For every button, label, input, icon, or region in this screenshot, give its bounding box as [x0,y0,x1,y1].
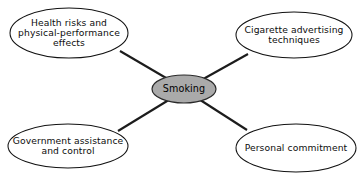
node-shape-commitment[interactable] [236,124,356,172]
node-shape-smoking-center[interactable] [152,75,216,103]
diagram-canvas-svg [0,0,363,181]
node-shape-advertising[interactable] [236,12,352,58]
node-shape-health-risks[interactable] [10,8,128,58]
cluster-diagram: Health risks and physical-performance ef… [0,0,363,181]
caption-strip [0,173,363,181]
node-shape-government[interactable] [8,124,128,168]
